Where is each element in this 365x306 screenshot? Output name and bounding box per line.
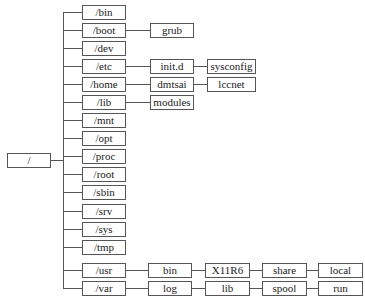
node-home-lccnet: lccnet bbox=[207, 77, 256, 92]
node-dir-lib: /lib bbox=[82, 95, 126, 110]
node-usr-x11r6: X11R6 bbox=[205, 263, 250, 278]
node-dir-mnt: /mnt bbox=[82, 113, 126, 128]
branch-connector bbox=[63, 192, 82, 193]
child-connector bbox=[125, 30, 150, 31]
node-usr-local: local bbox=[318, 263, 363, 278]
node-dir-var: /var bbox=[82, 281, 126, 296]
branch-connector bbox=[63, 66, 82, 67]
node-dir-srv: /srv bbox=[82, 204, 126, 219]
branch-connector bbox=[63, 229, 82, 230]
branch-connector bbox=[63, 84, 82, 85]
child-connector bbox=[249, 288, 262, 289]
child-connector bbox=[125, 288, 148, 289]
node-dir-home: /home bbox=[82, 77, 126, 92]
branch-connector bbox=[63, 138, 82, 139]
node-etc-initd: init.d bbox=[150, 59, 194, 74]
branch-connector bbox=[63, 174, 82, 175]
node-root: / bbox=[7, 153, 51, 168]
child-connector bbox=[125, 102, 150, 103]
node-lib-modules: modules bbox=[150, 95, 194, 110]
node-dir-dev: /dev bbox=[82, 41, 126, 56]
node-var-log: log bbox=[148, 281, 192, 296]
branch-connector bbox=[63, 270, 82, 271]
node-dir-root: /root bbox=[82, 167, 126, 182]
branch-connector bbox=[63, 288, 82, 289]
node-dir-opt: /opt bbox=[82, 131, 126, 146]
branch-connector bbox=[63, 211, 82, 212]
node-dir-sys: /sys bbox=[82, 222, 126, 237]
child-connector bbox=[191, 288, 205, 289]
node-dir-sbin: /sbin bbox=[82, 185, 126, 200]
branch-connector bbox=[63, 12, 82, 13]
branch-connector bbox=[63, 247, 82, 248]
branch-connector bbox=[63, 30, 82, 31]
child-connector bbox=[249, 270, 262, 271]
node-dir-tmp: /tmp bbox=[82, 240, 126, 255]
child-connector bbox=[125, 66, 150, 67]
node-usr-share: share bbox=[262, 263, 307, 278]
root-connector bbox=[50, 160, 63, 161]
node-home-dmtsai: dmtsai bbox=[150, 77, 194, 92]
child-connector bbox=[193, 84, 207, 85]
node-boot-grub: grub bbox=[150, 23, 194, 38]
branch-connector bbox=[63, 120, 82, 121]
child-connector bbox=[125, 270, 148, 271]
child-connector bbox=[125, 84, 150, 85]
branch-connector bbox=[63, 102, 82, 103]
node-usr-bin: bin bbox=[148, 263, 192, 278]
node-dir-boot: /boot bbox=[82, 23, 126, 38]
node-dir-etc: /etc bbox=[82, 59, 126, 74]
child-connector bbox=[193, 66, 207, 67]
node-etc-sysconfig: sysconfig bbox=[207, 59, 256, 74]
branch-connector bbox=[63, 156, 82, 157]
node-var-lib: lib bbox=[205, 281, 250, 296]
node-dir-proc: /proc bbox=[82, 149, 126, 164]
node-var-run: run bbox=[318, 281, 363, 296]
child-connector bbox=[306, 270, 318, 271]
branch-connector bbox=[63, 48, 82, 49]
node-dir-usr: /usr bbox=[82, 263, 126, 278]
node-dir-bin: /bin bbox=[82, 5, 126, 20]
node-var-spool: spool bbox=[262, 281, 307, 296]
child-connector bbox=[191, 270, 205, 271]
child-connector bbox=[306, 288, 318, 289]
